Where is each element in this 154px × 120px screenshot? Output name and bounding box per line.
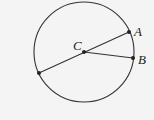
circle-diagram: C A B: [0, 0, 154, 120]
point-c: [82, 50, 86, 54]
point-b: [131, 56, 135, 60]
point-a: [127, 30, 131, 34]
label-a: A: [133, 24, 142, 39]
point-diameter-end: [37, 71, 41, 75]
radius-cb: [84, 52, 133, 58]
label-c: C: [73, 38, 82, 53]
label-b: B: [138, 52, 146, 67]
